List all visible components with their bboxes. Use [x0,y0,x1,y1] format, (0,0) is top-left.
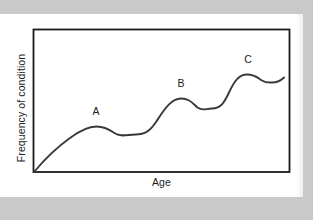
peak-label-a: A [92,105,99,117]
peak-label-b: B [177,77,184,89]
peak-label-c: C [244,53,252,65]
condition-frequency-curve [35,75,285,172]
plot-frame [34,30,290,173]
plot-area: A B C [0,14,303,197]
figure-container: Frequency of condition Age A B C [0,14,303,197]
